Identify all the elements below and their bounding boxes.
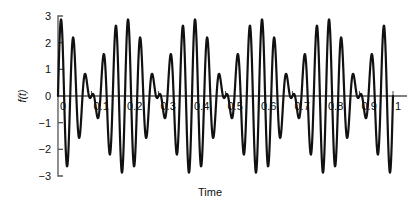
y-axis-title: f(t) xyxy=(16,90,28,103)
x-tick-label: 1 xyxy=(395,100,401,112)
x-tick-label: 0.4 xyxy=(194,100,209,112)
x-tick-label: 0.8 xyxy=(328,100,343,112)
x-tick-label: 0.2 xyxy=(127,100,142,112)
x-tick-label: 0.6 xyxy=(261,100,276,112)
y-axis-tick-labels: −3−2−10123 xyxy=(38,10,51,182)
y-tick-label: −2 xyxy=(38,143,51,155)
chart-figure: −3−2−10123 00.10.20.30.40.50.60.70.80.91… xyxy=(0,0,420,202)
y-tick-label: −3 xyxy=(38,170,51,182)
chart-canvas: −3−2−10123 00.10.20.30.40.50.60.70.80.91… xyxy=(0,0,420,202)
y-tick-label: 0 xyxy=(45,90,51,102)
y-tick-label: 2 xyxy=(45,37,51,49)
y-tick-label: 1 xyxy=(45,63,51,75)
x-axis-title: Time xyxy=(198,186,222,198)
y-tick-label: −1 xyxy=(38,117,51,129)
y-tick-label: 3 xyxy=(45,10,51,22)
